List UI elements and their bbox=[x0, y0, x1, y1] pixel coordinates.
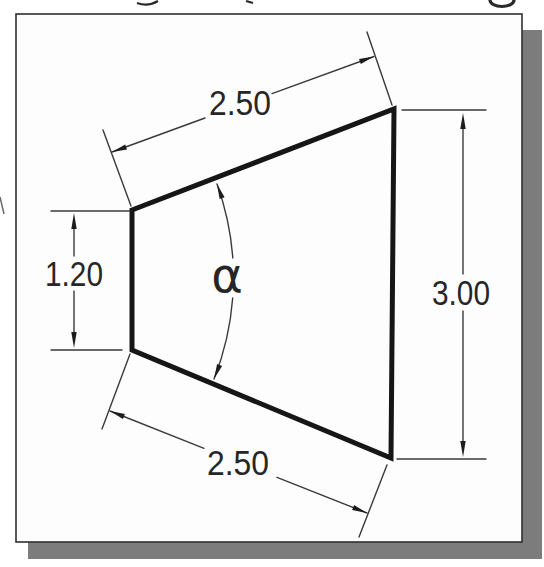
scan-artifact-g-descender bbox=[490, 0, 514, 7]
dimension-label-bottom-width: 2.50 bbox=[207, 443, 269, 482]
scanned-drawing-canvas: 2.50 2.50 1.20 3.00 α bbox=[0, 0, 544, 567]
angle-label: α bbox=[211, 247, 243, 303]
dimension-label-top-width: 2.50 bbox=[209, 83, 271, 122]
dimension-label-right-height: 3.00 bbox=[432, 273, 490, 312]
scan-artifact-dash bbox=[246, 1, 253, 3]
scan-artifact-descender-left bbox=[137, 1, 158, 5]
scan-artifact-left-edge bbox=[0, 197, 4, 214]
dimension-label-left-height: 1.20 bbox=[45, 254, 103, 293]
